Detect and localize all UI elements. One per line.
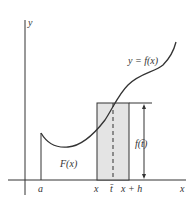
x-axis-label: x — [179, 183, 185, 194]
y-axis-label: y — [27, 17, 33, 28]
tick-tbar: t̄ — [110, 183, 114, 194]
area-label: F(x) — [59, 158, 78, 170]
tick-xh: x + h — [120, 183, 142, 194]
arrow-up-icon — [142, 104, 146, 109]
height-label: f(t̄) — [135, 138, 148, 150]
tick-x: x — [93, 183, 99, 194]
diagram: y x y = f(x) F(x) f(t̄) a x t̄ x + h — [0, 0, 194, 198]
arrow-down-icon — [142, 174, 146, 179]
curve-label: y = f(x) — [127, 55, 159, 67]
tick-a: a — [38, 183, 43, 194]
